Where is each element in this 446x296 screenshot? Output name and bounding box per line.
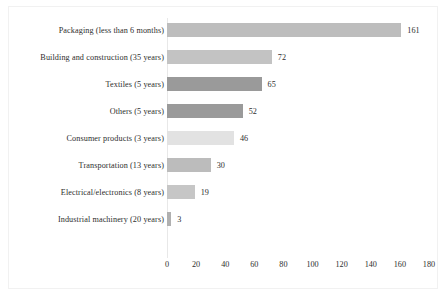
- x-axis: 020406080100120140160180: [167, 260, 429, 278]
- bar: [167, 50, 272, 64]
- bar-value-label: 52: [243, 106, 257, 115]
- bar-track: 161: [167, 23, 429, 37]
- bar-track: 52: [167, 104, 429, 118]
- category-label: Consumer products (3 years): [66, 133, 164, 142]
- bar-row: Consumer products (3 years)46: [0, 124, 446, 151]
- category-label: Electrical/electronics (8 years): [61, 187, 164, 196]
- x-axis-tick-label: 100: [306, 260, 318, 269]
- category-label: Others (5 years): [110, 106, 164, 115]
- x-axis-tick-label: 160: [394, 260, 406, 269]
- bar-chart: Packaging (less than 6 months)161Buildin…: [0, 0, 446, 296]
- x-axis-tick-label: 40: [221, 260, 229, 269]
- bar-value-label: 30: [211, 160, 225, 169]
- x-axis-tick-label: 140: [365, 260, 377, 269]
- bar-track: 46: [167, 131, 429, 145]
- bar-row: Building and construction (35 years)72: [0, 43, 446, 70]
- bar-value-label: 72: [272, 52, 286, 61]
- x-axis-tick-label: 180: [423, 260, 435, 269]
- bar-row: Industrial machinery (20 years)3: [0, 205, 446, 232]
- category-label: Industrial machinery (20 years): [58, 214, 164, 223]
- bar-row: Others (5 years)52: [0, 97, 446, 124]
- bar-row: Electrical/electronics (8 years)19: [0, 178, 446, 205]
- x-axis-tick-label: 120: [336, 260, 348, 269]
- category-label: Transportation (13 years): [79, 160, 164, 169]
- bar: [167, 77, 262, 91]
- bar-track: 65: [167, 77, 429, 91]
- category-label: Packaging (less than 6 months): [59, 25, 164, 34]
- bar-track: 3: [167, 212, 429, 226]
- bar: [167, 131, 234, 145]
- x-axis-tick-label: 60: [250, 260, 258, 269]
- bar: [167, 158, 211, 172]
- bar-track: 72: [167, 50, 429, 64]
- bar-value-label: 3: [171, 214, 181, 223]
- bar-row: Textiles (5 years)65: [0, 70, 446, 97]
- category-label: Textiles (5 years): [105, 79, 164, 88]
- bar: [167, 23, 401, 37]
- bar: [167, 185, 195, 199]
- bar-track: 30: [167, 158, 429, 172]
- bar-value-label: 46: [234, 133, 248, 142]
- x-axis-tick-label: 0: [165, 260, 169, 269]
- x-axis-tick-label: 20: [192, 260, 200, 269]
- bar-value-label: 65: [262, 79, 276, 88]
- bar-row: Packaging (less than 6 months)161: [0, 16, 446, 43]
- bar-value-label: 19: [195, 187, 209, 196]
- bar: [167, 104, 243, 118]
- bar-value-label: 161: [401, 25, 419, 34]
- category-label: Building and construction (35 years): [40, 52, 164, 61]
- bar-row: Transportation (13 years)30: [0, 151, 446, 178]
- bar-track: 19: [167, 185, 429, 199]
- bar-rows: Packaging (less than 6 months)161Buildin…: [0, 16, 446, 232]
- x-axis-tick-label: 80: [279, 260, 287, 269]
